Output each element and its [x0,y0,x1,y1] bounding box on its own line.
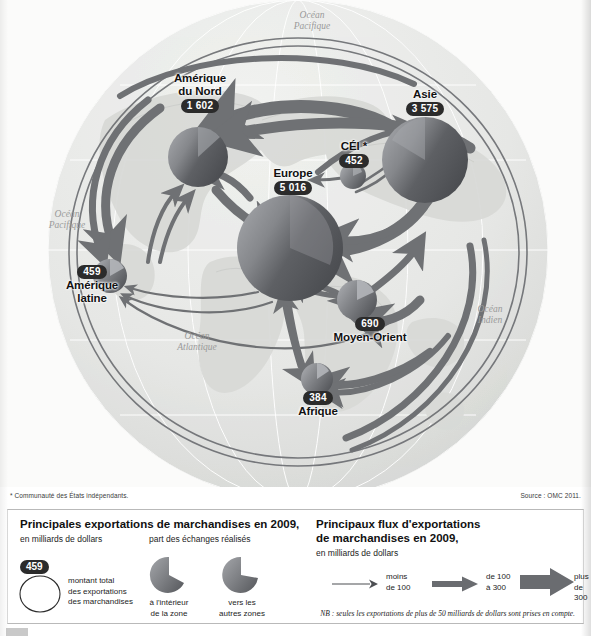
region-name-moyen-orient: Moyen-Orient [324,331,416,344]
region-label-asie: Asie 3 575 [388,88,462,116]
source-credit: Source : OMC 2011. [520,492,581,499]
bubble-asie [382,117,468,203]
region-value-afrique: 384 [303,391,333,405]
ocean-label-pacifique-ouest: Océan Pacifique [27,209,107,231]
legend-pie-inside-l2: de la zone [133,609,205,620]
legend-circle-caption-l1: montant total [68,576,158,587]
region-label-afrique: 384 Afrique [286,390,350,418]
bubble-moyen-orient [337,280,377,320]
region-label-europe: Europe 5 016 [256,167,330,195]
legend-pie-inside-caption: à l'intérieur de la zone [133,598,205,619]
footnote-cei: * Communauté des États indépendants. [10,492,129,499]
legend-arrow-small-l1: moins [386,572,434,583]
legend-left-share: part des échanges réalisés [149,534,251,545]
region-label-cei: CÉI * 452 [322,140,386,168]
bubble-europe [237,195,343,301]
ocean-line2: Indien [452,315,528,326]
legend-divider [308,516,309,618]
region-value-europe: 5 016 [274,181,313,195]
legend-circle-caption-l2: des exportations [68,587,158,598]
ocean-line2: Pacifique [27,220,107,231]
ocean-line2: Pacifique [272,21,352,32]
region-name-asie: Asie [388,88,462,101]
region-name-afrique: Afrique [286,405,350,418]
region-value-asie: 3 575 [406,102,445,116]
legend-right-title-l1: Principaux flux d'exportations [316,517,480,531]
bubble-amerique-du-nord [168,127,228,187]
region-label-moyen-orient: 690 Moyen-Orient [324,316,416,344]
infographic-page: Amérique du Nord 1 602 Asie 3 575 CÉI * … [0,0,591,636]
legend-pie-outside-icon [220,554,262,596]
region-name-cei: CÉI * [322,140,386,153]
legend-arrow-large-l1: plus [574,572,576,583]
region-name-amlat-line2: latine [48,292,136,305]
ocean-line1: Océan [452,304,528,315]
legend-arrow-small-icon [330,576,380,592]
legend-right-units: en milliards de dollars [316,548,398,559]
page-number-marker [6,628,28,636]
legend-pie-inside-l1: à l'intérieur [133,598,205,609]
region-value-amerique-du-nord: 1 602 [181,99,220,113]
legend-arrow-small-l2: de 100 [386,583,434,594]
region-name-line2: du Nord [150,85,250,98]
legend-pie-outside-l1: vers les [206,598,278,609]
legend-arrow-large-l2: de 300 [574,583,576,604]
legend-left-title: Principales exportations de marchandises… [20,517,299,531]
legend-panel: Principales exportations de marchandises… [7,509,584,624]
ocean-line2: Atlantique [154,342,240,353]
ocean-label-atlantique: Océan Atlantique [154,331,240,353]
legend-pie-inside-icon [148,554,190,596]
ocean-label-pacifique-nord: Océan Pacifique [272,10,352,32]
region-value-moyen-orient: 690 [355,317,385,331]
region-name-amlat-line1: Amérique [48,279,136,292]
footnote-strip: * Communauté des États indépendants. Sou… [0,487,591,509]
legend-pie-outside-l2: autres zones [206,609,278,620]
legend-left-units: en milliards de dollars [20,534,102,545]
ocean-line1: Océan [272,10,352,21]
region-name-line1: Amérique [150,72,250,85]
region-value-cei: 452 [339,154,369,168]
legend-arrow-large-caption: plus de 300 [528,572,576,604]
region-label-amerique-latine: 459 Amérique latine [48,264,136,305]
legend-arrow-medium-icon [432,574,480,594]
ocean-line1: Océan [27,209,107,220]
legend-circle-value: 459 [20,560,49,574]
legend-right-title-l2: de marchandises en 2009, [316,531,459,545]
legend-total-circle-icon [18,574,62,614]
region-label-amerique-du-nord: Amérique du Nord 1 602 [150,72,250,113]
legend-arrow-small-caption: moins de 100 [386,572,434,593]
region-name-europe: Europe [256,167,330,180]
region-value-amerique-latine: 459 [77,265,107,279]
ocean-line1: Océan [154,331,240,342]
world-map: Amérique du Nord 1 602 Asie 3 575 CÉI * … [0,0,591,487]
legend-pie-outside-caption: vers les autres zones [206,598,278,619]
ocean-label-indien: Océan Indien [452,304,528,326]
legend-nb-note: NB : seules les exportations de plus de … [320,609,575,618]
